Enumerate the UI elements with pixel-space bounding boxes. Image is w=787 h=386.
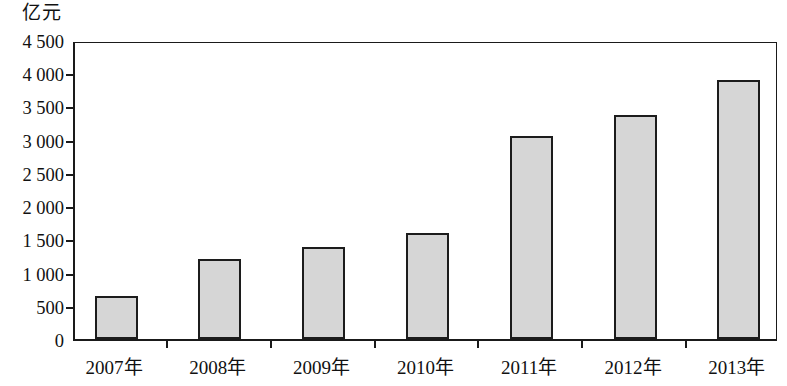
x-axis-tick	[374, 341, 376, 348]
y-axis-tick-label: 1 000	[0, 266, 64, 285]
bar	[198, 259, 241, 339]
y-axis-tick-label: 3 000	[0, 133, 64, 152]
x-axis-category-label: 2009年	[270, 356, 374, 380]
bar	[717, 80, 760, 339]
y-axis-tick-label: 500	[0, 299, 64, 318]
x-axis-tick	[270, 341, 272, 348]
x-axis-category-label: 2012年	[581, 356, 685, 380]
y-axis-tick-label: 1 500	[0, 232, 64, 251]
bar	[95, 296, 138, 339]
plot-area	[73, 42, 777, 341]
bar	[406, 233, 449, 339]
x-axis-category-label: 2013年	[685, 356, 787, 380]
y-axis-tick-label: 2 500	[0, 166, 64, 185]
y-axis-unit-label: 亿元	[22, 2, 61, 24]
y-axis-tick-label: 4 500	[0, 33, 64, 52]
x-axis-tick	[685, 341, 687, 348]
bar	[302, 247, 345, 339]
x-axis-category-label: 2010年	[373, 356, 477, 380]
y-axis-tick-label: 0	[0, 332, 64, 351]
x-axis-category-label: 2008年	[166, 356, 270, 380]
x-axis-tick	[166, 341, 168, 348]
bar-chart: 亿元 4 5004 0003 5003 0002 5002 0001 5001 …	[0, 0, 787, 386]
x-axis-tick	[581, 341, 583, 348]
x-axis-tick	[477, 341, 479, 348]
bar	[510, 136, 553, 339]
y-axis-tick-label: 2 000	[0, 199, 64, 218]
y-axis-tick-label: 3 500	[0, 99, 64, 118]
bar	[614, 115, 657, 339]
x-axis-category-label: 2007年	[62, 356, 166, 380]
x-axis-category-label: 2011年	[477, 356, 581, 380]
y-axis-tick-label: 4 000	[0, 66, 64, 85]
